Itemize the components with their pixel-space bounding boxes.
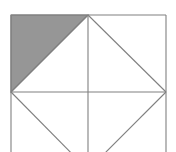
figure-canvas — [0, 0, 176, 152]
geometry-figure — [0, 0, 176, 152]
